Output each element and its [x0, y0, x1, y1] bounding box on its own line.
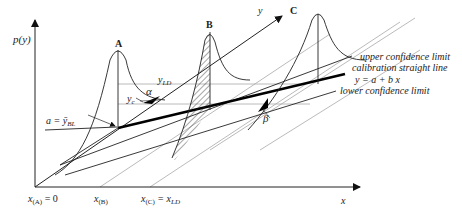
- diagram-canvas: [0, 0, 462, 214]
- upper-confidence-label: upper confidence limit: [360, 52, 450, 62]
- peak-a-label: A: [115, 39, 122, 49]
- x-a-tick-label: x(A) = 0: [28, 194, 58, 206]
- peak-a: [45, 50, 165, 175]
- calibration-diagram: p(y) x y A B C a = ȳBL yc yLD α β upper …: [0, 0, 462, 214]
- beta-label: β: [263, 113, 268, 124]
- lower-confidence-label: lower confidence limit: [340, 86, 429, 96]
- peak-c-label: C: [290, 6, 297, 16]
- peak-b-label: B: [206, 20, 213, 30]
- y-axis-label: y: [258, 6, 262, 16]
- peak-b: [172, 32, 250, 160]
- intercept-label: a = ȳBL: [46, 116, 75, 128]
- y-axis-oblique: [35, 16, 282, 187]
- equation-label: y = a + b x: [355, 75, 400, 85]
- p-axis-label: p(y): [13, 34, 31, 45]
- alpha-label: α: [146, 86, 152, 97]
- calibration-label: calibration straight line: [352, 63, 448, 73]
- x-c-tick-label: x(C) = xLD: [141, 194, 180, 206]
- x-b-tick-label: x(B): [94, 194, 108, 206]
- y-ld-label: yLD: [158, 75, 171, 87]
- y-c-label: yc: [127, 94, 135, 106]
- x-axis-label: x: [341, 196, 345, 206]
